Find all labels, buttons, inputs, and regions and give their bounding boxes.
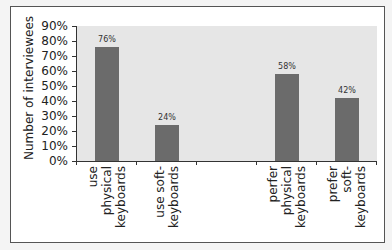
x-category-label: usephysicalkeyboards — [86, 166, 128, 236]
y-tick-mark — [72, 41, 76, 42]
y-tick-label: 40% — [20, 95, 68, 107]
bar — [155, 125, 179, 161]
y-tick-label: 50% — [20, 80, 68, 92]
bar — [275, 74, 299, 161]
x-tick-mark — [76, 161, 77, 165]
x-category-label: perferphysicalkeyboards — [266, 166, 308, 236]
x-tick-mark — [136, 161, 137, 165]
y-tick-mark — [72, 56, 76, 57]
y-tick-label: 80% — [20, 35, 68, 47]
x-tick-mark — [316, 161, 317, 165]
y-tick-mark — [72, 101, 76, 102]
bar-value-label: 24% — [147, 113, 187, 122]
y-tick-label: 60% — [20, 65, 68, 77]
x-category-label: prefersoft-keyboards — [326, 166, 368, 236]
x-tick-mark — [376, 161, 377, 165]
y-tick-mark — [72, 116, 76, 117]
y-tick-mark — [72, 26, 76, 27]
x-tick-mark — [256, 161, 257, 165]
bar — [335, 98, 359, 161]
bar-value-label: 58% — [267, 62, 307, 71]
x-category-label: use soft-keyboards — [153, 166, 181, 236]
y-tick-label: 30% — [20, 110, 68, 122]
y-tick-label: 70% — [20, 50, 68, 62]
y-tick-label: 90% — [20, 20, 68, 32]
bar-value-label: 42% — [327, 86, 367, 95]
y-axis-line — [76, 26, 77, 162]
y-tick-label: 0% — [20, 155, 68, 167]
y-tick-label: 20% — [20, 125, 68, 137]
x-tick-mark — [196, 161, 197, 165]
x-axis-line — [76, 161, 377, 162]
bar-value-label: 76% — [87, 35, 127, 44]
bar — [95, 47, 119, 161]
y-tick-label: 10% — [20, 140, 68, 152]
y-tick-mark — [72, 146, 76, 147]
y-tick-mark — [72, 86, 76, 87]
y-tick-mark — [72, 71, 76, 72]
y-tick-mark — [72, 131, 76, 132]
